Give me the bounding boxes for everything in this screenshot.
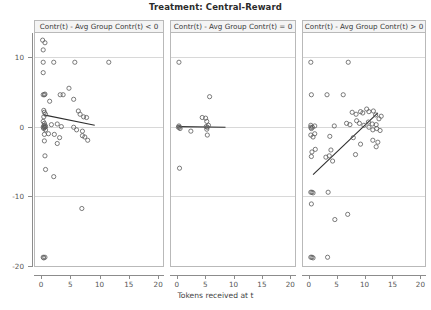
x-tick-label: 15	[254, 280, 270, 289]
x-axis-title: Tokens received at t	[0, 291, 431, 300]
x-tick-label: 5	[329, 280, 345, 289]
panel-title: Contr(t) - Avg Group Contr(t) > 0	[305, 22, 423, 31]
y-tick-mark	[28, 57, 32, 58]
x-tick-mark	[420, 275, 421, 279]
gridline-yneg20	[35, 266, 163, 267]
x-tick-label: 10	[92, 280, 108, 289]
x-tick-mark	[177, 275, 178, 279]
x-tick-mark	[337, 275, 338, 279]
x-tick-mark	[392, 275, 393, 279]
x-tick-label: 20	[282, 280, 298, 289]
y-tick-label: -10	[0, 192, 24, 201]
panel-positive: Contr(t) - Avg Group Contr(t) > 0	[302, 20, 426, 275]
x-axis-panel-1: 05101520	[34, 275, 164, 276]
x-tick-mark	[262, 275, 263, 279]
panel-header: Contr(t) - Avg Group Contr(t) < 0	[34, 20, 164, 33]
figure-title: Treatment: Central-Reward	[0, 2, 431, 12]
x-tick-label: 10	[357, 280, 373, 289]
x-tick-mark	[129, 275, 130, 279]
x-axis-panel-3: 05101520	[302, 275, 426, 276]
panel-header: Contr(t) - Avg Group Contr(t) > 0	[302, 20, 426, 33]
x-tick-mark	[41, 275, 42, 279]
y-tick-label: 10	[0, 53, 24, 62]
x-tick-label: 0	[169, 280, 185, 289]
x-tick-label: 5	[197, 280, 213, 289]
x-tick-label: 20	[150, 280, 166, 289]
x-tick-mark	[70, 275, 71, 279]
gridline-yneg20	[171, 266, 295, 267]
y-tick-label: 0	[0, 123, 24, 132]
x-tick-label: 0	[301, 280, 317, 289]
plot-area	[170, 33, 296, 267]
x-tick-mark	[205, 275, 206, 279]
plot-area	[34, 33, 164, 267]
y-tick-mark	[28, 127, 32, 128]
x-tick-mark	[290, 275, 291, 279]
panel-title: Contr(t) - Avg Group Contr(t) = 0	[174, 22, 292, 31]
x-tick-label: 15	[121, 280, 137, 289]
gridline-yneg20	[303, 266, 425, 267]
plot-area	[302, 33, 426, 267]
x-tick-label: 20	[412, 280, 428, 289]
scatter-layer-panel-3	[303, 33, 425, 266]
x-tick-label: 10	[226, 280, 242, 289]
panel-zero: Contr(t) - Avg Group Contr(t) = 0	[170, 20, 296, 275]
panel-negative: Contr(t) - Avg Group Contr(t) < 0	[34, 20, 164, 275]
scatter-layer-panel-2	[171, 33, 295, 266]
x-tick-mark	[365, 275, 366, 279]
panel-header: Contr(t) - Avg Group Contr(t) = 0	[170, 20, 296, 33]
panel-title: Contr(t) - Avg Group Contr(t) < 0	[40, 22, 158, 31]
y-tick-mark	[28, 266, 32, 267]
y-axis: Contr(t+1) - Contr(t) 10 0 -10 -20	[32, 33, 33, 267]
y-tick-label: -20	[0, 262, 24, 271]
x-tick-mark	[100, 275, 101, 279]
x-tick-mark	[158, 275, 159, 279]
scatter-figure: Treatment: Central-Reward Contr(t+1) - C…	[0, 0, 431, 310]
x-tick-mark	[234, 275, 235, 279]
x-tick-label: 0	[33, 280, 49, 289]
x-tick-label: 15	[384, 280, 400, 289]
x-tick-label: 5	[62, 280, 78, 289]
scatter-layer-panel-1	[35, 33, 163, 266]
y-tick-mark	[28, 196, 32, 197]
x-axis-panel-2: 05101520	[170, 275, 296, 276]
x-tick-mark	[309, 275, 310, 279]
